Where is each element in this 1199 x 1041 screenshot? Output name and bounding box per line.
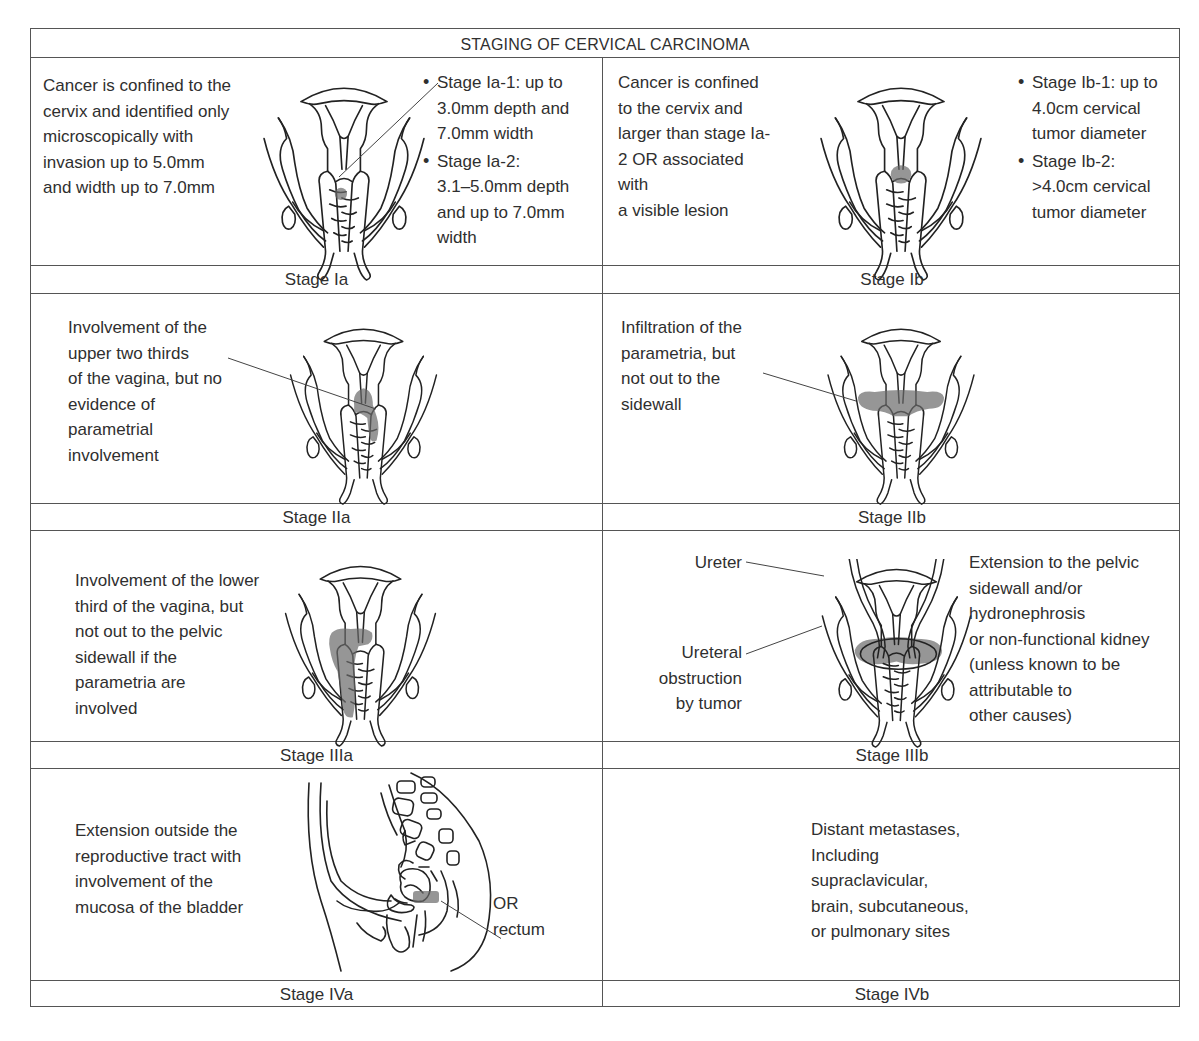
divider [31,293,1179,294]
pelvis-sagittal-diagram-icon [301,771,501,976]
staging-table: STAGING OF CERVICAL CARCINOMA Cancer is … [30,28,1180,1007]
stage-iiib-label: Stage IIIb [603,742,1181,769]
table-title: STAGING OF CERVICAL CARCINOMA [31,29,1179,58]
uterus-frontal-diagram-icon [814,559,979,749]
stage-iia-label: Stage IIa [31,504,602,531]
uterus-frontal-diagram-icon [816,77,986,282]
stage-iiib-description: Extension to the pelvic sidewall and/or … [969,550,1150,729]
stage-ivb-label: Stage IVb [603,981,1181,1008]
stage-iva-description: Extension outside the reproductive tract… [75,818,243,920]
stage-iva-label: Stage IVa [31,981,602,1008]
stage-iib-description: Infiltration of the parametria, but not … [621,315,742,417]
uterus-frontal-diagram-icon [816,319,986,506]
stage-ib-1-bullet: Stage Ib-1: up to 4.0cm cervical tumor d… [1018,70,1183,147]
stage-ia-1-bullet: Stage Ia-1: up to 3.0mm depth and 7.0mm … [423,70,603,147]
stage-iiia-label: Stage IIIa [31,742,602,769]
stage-iib-label: Stage IIb [603,504,1181,531]
stage-ia-2-bullet: Stage Ia-2: 3.1–5.0mm depth and up to 7.… [423,149,603,251]
stage-ivb-description: Distant metastases, Including supraclavi… [811,817,969,945]
leader-line [226,354,386,414]
stage-ia-substages: Stage Ia-1: up to 3.0mm depth and 7.0mm … [423,70,603,253]
divider [31,57,1179,58]
stage-ib-description: Cancer is confined to the cervix and lar… [618,70,770,223]
stage-iiia-description: Involvement of the lower third of the va… [75,568,259,721]
ureteral-obstruction-label: Ureteral obstruction by tumor [641,640,742,717]
ureter-label: Ureter [686,550,742,576]
leader-line [761,369,861,409]
uterus-frontal-diagram-icon [283,556,438,748]
stage-ia-label: Stage Ia [31,266,602,293]
stage-iia-description: Involvement of the upper two thirds of t… [68,315,222,468]
or-rectum-callout: OR rectum [493,891,545,942]
stage-ia-description: Cancer is confined to the cervix and ide… [43,73,231,201]
stage-ib-substages: Stage Ib-1: up to 4.0cm cervical tumor d… [1018,70,1183,227]
stage-ib-2-bullet: Stage Ib-2: >4.0cm cervical tumor diamet… [1018,149,1183,226]
stage-ib-label: Stage Ib [603,266,1181,293]
